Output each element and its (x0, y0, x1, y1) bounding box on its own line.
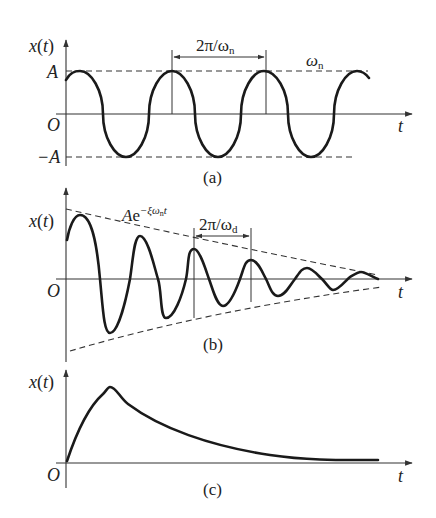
origin-label: O (47, 465, 60, 485)
vibration-diagrams: x(t) A O −A t 2π/ωn ωn (a) x(t) O t Ae−ξ… (0, 0, 436, 518)
period-label: 2π/ωn (196, 36, 235, 56)
origin-label: O (47, 115, 60, 135)
x-axis-label: t (398, 116, 404, 136)
y-axis-label: x(t) (28, 372, 54, 393)
panel-a: x(t) A O −A t 2π/ωn ωn (a) (28, 36, 412, 187)
overdamped-response-curve (67, 387, 378, 461)
y-axis-label: x(t) (28, 211, 54, 232)
damped-period-label: 2π/ωd (199, 215, 238, 235)
x-axis-label: t (398, 466, 404, 486)
lower-envelope (70, 287, 382, 351)
neg-amplitude-label: −A (37, 147, 61, 167)
panel-caption-c: (c) (203, 480, 222, 499)
panel-caption-a: (a) (203, 168, 222, 187)
envelope-label: Ae−ξωnt (121, 204, 168, 225)
natural-frequency-label: ωn (306, 51, 324, 71)
panel-caption-b: (b) (203, 335, 223, 354)
y-axis-label: x(t) (28, 36, 54, 57)
panel-c: x(t) O t (c) (28, 370, 412, 499)
origin-label: O (47, 281, 60, 301)
panel-b: x(t) O t Ae−ξωnt 2π/ωd (b) (28, 188, 412, 362)
x-axis-label: t (398, 282, 404, 302)
amplitude-label: A (46, 62, 59, 82)
